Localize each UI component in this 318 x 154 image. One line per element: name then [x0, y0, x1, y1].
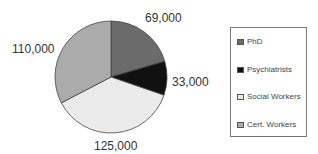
swatch-psychiatrists	[237, 67, 244, 73]
legend-item-social-workers: Social Workers	[237, 92, 301, 101]
legend-item-phd: PhD	[237, 37, 263, 46]
swatch-social-workers	[237, 94, 244, 100]
legend-label: Psychiatrists	[247, 65, 292, 74]
swatch-cert-workers	[237, 122, 244, 128]
swatch-phd	[237, 39, 244, 45]
legend-item-cert-workers: Cert. Workers	[237, 120, 296, 129]
label-phd: 69,000	[145, 11, 182, 25]
legend-label: Cert. Workers	[247, 120, 296, 129]
legend-label: PhD	[247, 37, 263, 46]
label-social-workers: 125,000	[94, 139, 137, 153]
legend-label: Social Workers	[247, 92, 301, 101]
label-psychiatrists: 33,000	[172, 75, 209, 89]
legend: PhD Psychiatrists Social Workers Cert. W…	[230, 27, 307, 137]
label-cert-workers: 110,000	[12, 42, 55, 56]
legend-item-psychiatrists: Psychiatrists	[237, 65, 292, 74]
